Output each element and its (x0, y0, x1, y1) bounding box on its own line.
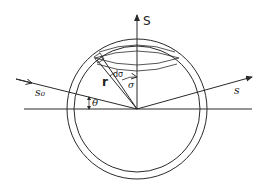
label-scattered-s: s (234, 84, 240, 97)
label-incident-s0: s₀ (35, 86, 46, 99)
label-theta: θ (92, 97, 98, 108)
label-radius-r: r (102, 75, 108, 89)
label-ring-element: dσ (113, 70, 123, 79)
scattering-diagram: S s₀ s r dσ σ θ (0, 0, 268, 185)
label-polar-angle: σ (128, 80, 135, 90)
label-polar-axis-S: S (143, 14, 151, 28)
incident-ray-arrow (16, 79, 32, 83)
